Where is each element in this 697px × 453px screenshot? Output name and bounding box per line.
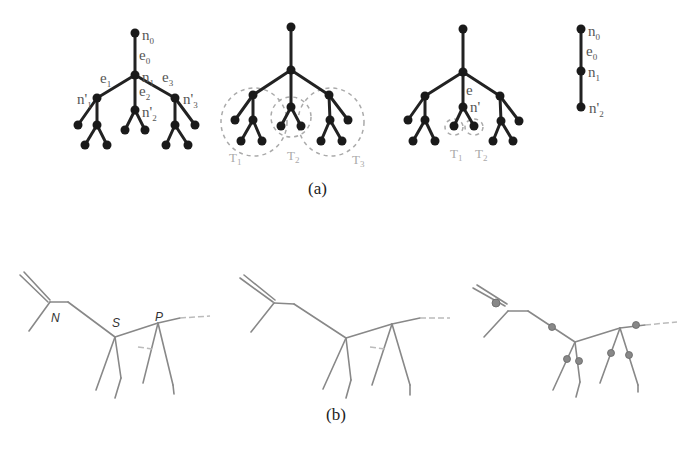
label-e3: e3 [162,69,174,88]
joint-front-leg-1 [564,356,571,363]
label-e0: e0 [139,47,151,66]
joint-label-P: P [155,310,163,324]
label-T3: T3 [352,152,365,169]
joint-back-leg-2 [626,352,633,359]
node-n2-prime [131,106,140,115]
label-T1-small: T1 [450,146,462,163]
tree-2-subtrees: T1 T2 T3 [221,23,365,170]
tree-4-path: n0 e0 n1 n'2 [577,23,604,119]
label-e: e [466,82,473,98]
label-T2: T2 [287,148,299,165]
joint-head [492,299,500,307]
label-n3-prime: n'3 [183,91,198,110]
label-path-e0: e0 [586,43,598,62]
caption-a: (a) [308,179,327,198]
node-n1 [131,71,140,80]
joint-label-S: S [112,316,120,330]
label-n1-prime: n'1 [77,91,92,110]
label-e2: e2 [139,83,150,102]
label-T2-small: T2 [475,146,487,163]
tree-1-labeled: n0 e0 n1 e1 e2 e3 n'1 n'2 n'3 [74,27,200,150]
label-path-n2-prime: n'2 [589,100,604,119]
skeleton-1: N S P [20,272,210,398]
tree-3-edge-highlight: e n' T1 T2 [404,25,524,164]
skeleton-3-with-joints [473,285,677,397]
node-n1-prime [93,94,102,103]
joint-back-leg-1 [608,350,615,357]
figure-canvas: n0 e0 n1 e1 e2 e3 n'1 n'2 n'3 [0,0,697,453]
joint-front-leg-2 [576,358,583,365]
label-path-n1: n1 [588,64,600,83]
node-n0 [131,29,140,38]
label-n2-prime: n'2 [142,104,157,123]
label-n-prime: n' [470,99,481,115]
joint-tail [633,322,640,329]
joint-neck [549,324,556,331]
caption-b: (b) [326,405,346,424]
node-n-prime [459,103,468,112]
skeleton-2 [240,275,450,398]
node-n3-prime [171,94,180,103]
label-n0: n0 [142,27,155,46]
label-e1: e1 [100,70,111,89]
label-path-n0: n0 [588,23,601,42]
joint-label-N: N [51,311,60,325]
